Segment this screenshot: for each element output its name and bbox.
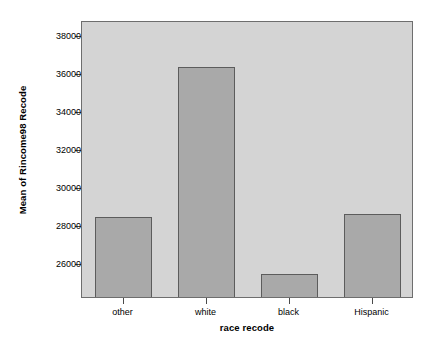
y-axis-tick-label-wrap: 36000 bbox=[0, 69, 81, 79]
y-axis-tick-label-wrap: 32000 bbox=[0, 145, 81, 155]
bar-other bbox=[95, 217, 152, 298]
x-axis-tick bbox=[206, 298, 207, 304]
x-axis-tick-label: other bbox=[78, 306, 168, 318]
y-axis-tick-label: 28000 bbox=[19, 221, 81, 231]
y-axis-tick-label-wrap: 30000 bbox=[0, 183, 81, 193]
x-axis-tick bbox=[123, 298, 124, 304]
plot-area bbox=[81, 21, 413, 298]
y-axis-tick-label-wrap: 38000 bbox=[0, 31, 81, 41]
x-axis-tick bbox=[289, 298, 290, 304]
x-axis-tick bbox=[372, 298, 373, 304]
y-axis-tick-label: 32000 bbox=[19, 145, 81, 155]
y-axis-tick-label: 26000 bbox=[19, 259, 81, 269]
y-axis-tick-label: 38000 bbox=[19, 31, 81, 41]
bar-white bbox=[178, 67, 235, 298]
y-axis-tick-label-wrap: 34000 bbox=[0, 107, 81, 117]
x-axis-tick-label: black bbox=[244, 306, 334, 318]
bars-layer bbox=[82, 22, 412, 297]
y-axis-tick-label: 30000 bbox=[19, 183, 81, 193]
bar-chart: Mean of Rincome98 Recode 260002800030000… bbox=[0, 0, 435, 346]
x-axis-title: race recode bbox=[81, 322, 413, 333]
y-axis-tick-label: 36000 bbox=[19, 69, 81, 79]
y-axis-tick-label: 34000 bbox=[19, 107, 81, 117]
y-axis-tick-label-wrap: 28000 bbox=[0, 221, 81, 231]
bar-Hispanic bbox=[344, 214, 401, 298]
x-axis-tick-label: white bbox=[161, 306, 251, 318]
x-axis-tick-label: Hispanic bbox=[327, 306, 417, 318]
bar-black bbox=[261, 274, 318, 298]
y-axis-tick-label-wrap: 26000 bbox=[0, 259, 81, 269]
